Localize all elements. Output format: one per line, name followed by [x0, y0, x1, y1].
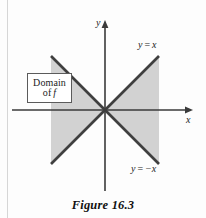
coordinate-plot	[0, 0, 206, 218]
x-axis-arrowhead	[185, 107, 193, 114]
y-axis-arrowhead	[102, 20, 109, 28]
figure-container: Domain off y=x y=−x y x Figure 16.3	[0, 0, 206, 218]
label-line-y-equals-negative-x: y=−x	[131, 163, 156, 174]
y-axis-label: y	[96, 17, 100, 28]
callout-line-2: off	[43, 88, 56, 99]
label-y-equals-x-operator: =	[142, 39, 152, 50]
figure-caption: Figure 16.3	[0, 198, 206, 213]
label-line-y-equals-x: y=x	[138, 39, 157, 50]
label-y-equals-x-rhs: x	[152, 39, 156, 50]
domain-of-f-callout: Domain off	[27, 73, 72, 103]
callout-function-symbol: f	[51, 87, 56, 98]
x-axis-label: x	[186, 114, 190, 125]
label-y-equals-negative-x-rhs: −x	[145, 163, 156, 174]
label-y-equals-negative-x-operator: =	[135, 163, 145, 174]
